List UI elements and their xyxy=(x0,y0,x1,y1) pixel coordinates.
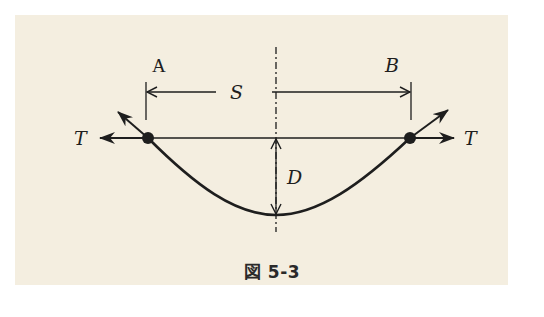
label-support-b: B xyxy=(384,54,399,76)
support-point-b xyxy=(404,132,416,144)
tension-arrow-right-tangent xyxy=(410,110,448,138)
label-tension-right: T xyxy=(464,127,478,149)
label-support-a: A xyxy=(152,55,166,76)
label-tension-left: T xyxy=(74,127,88,149)
cable-curve xyxy=(148,138,410,215)
label-span-s: S xyxy=(230,81,243,103)
support-point-a xyxy=(142,132,154,144)
label-sag-d: D xyxy=(286,166,302,188)
figure-caption: 図 5-3 xyxy=(0,258,544,283)
